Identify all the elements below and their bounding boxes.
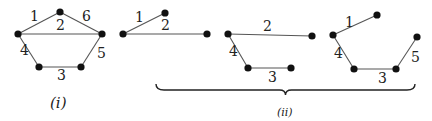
vertex <box>392 65 399 72</box>
graph-g3: 243 <box>224 18 315 85</box>
edge-2 <box>228 34 312 36</box>
vertex <box>287 64 294 71</box>
vertex <box>224 30 231 37</box>
edge-label: 3 <box>378 70 387 86</box>
vertex <box>329 31 336 38</box>
edge-label: 4 <box>20 42 29 58</box>
diagram-canvas: 123456122431435 (i) (ii) <box>0 0 432 121</box>
caption-i: (i) <box>50 94 67 112</box>
vertex <box>98 30 105 37</box>
vertex <box>77 63 84 70</box>
edge-label: 6 <box>82 8 91 24</box>
edge-label: 5 <box>411 49 420 65</box>
edge-6 <box>60 12 102 34</box>
edge-1 <box>123 13 165 34</box>
edge-1 <box>18 12 60 34</box>
edge-label: 4 <box>229 43 238 59</box>
vertex <box>56 8 63 15</box>
caption-ii: (ii) <box>277 106 293 119</box>
vertex <box>413 33 420 40</box>
vertex <box>35 63 42 70</box>
vertex <box>119 30 126 37</box>
vertex <box>244 64 251 71</box>
vertex <box>350 65 357 72</box>
edge-label: 2 <box>161 17 170 33</box>
edge-label: 2 <box>56 17 65 33</box>
graphs-layer: 123456122431435 <box>14 8 420 86</box>
graph-g2: 12 <box>119 9 210 38</box>
graph-g4: 1435 <box>329 11 420 86</box>
vertex <box>14 30 21 37</box>
edge-label: 3 <box>268 69 277 85</box>
vertex <box>161 9 168 16</box>
edge-label: 3 <box>57 67 66 83</box>
vertex <box>373 11 380 18</box>
brace-ii <box>156 84 415 95</box>
edge-label: 1 <box>345 14 354 30</box>
vertex <box>203 30 210 37</box>
edge-label: 4 <box>334 45 343 61</box>
graph-g1: 123456 <box>14 8 106 83</box>
vertex <box>308 32 315 39</box>
edge-label: 1 <box>30 8 39 24</box>
edge-label: 1 <box>135 9 144 25</box>
edge-label: 2 <box>263 18 272 34</box>
edge-1 <box>333 15 377 35</box>
edge-label: 5 <box>97 45 106 61</box>
